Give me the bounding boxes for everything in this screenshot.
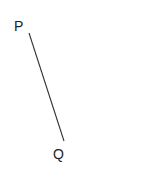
diagram-canvas: P Q [0,0,167,185]
point-label-p: P [14,18,23,34]
segment-pq [29,33,64,141]
point-label-q: Q [53,146,64,162]
